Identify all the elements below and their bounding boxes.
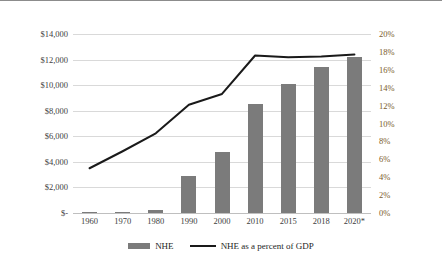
right-tick-10%: 10% — [379, 120, 395, 129]
left-tick-$6,000: $6,000 — [45, 132, 68, 141]
x-tick-2018: 2018 — [305, 217, 338, 226]
x-tick-1970: 1970 — [106, 217, 139, 226]
left-tick-$14,000: $14,000 — [40, 30, 68, 39]
legend-item-nhe[interactable]: NHE — [128, 241, 174, 251]
x-tick-2010: 2010 — [239, 217, 272, 226]
left-tick-$8,000: $8,000 — [45, 107, 68, 116]
left-tick-$-: $- — [61, 209, 68, 218]
line-series — [73, 34, 371, 213]
right-tick-16%: 16% — [379, 66, 395, 75]
left-tick-$10,000: $10,000 — [40, 81, 68, 90]
legend-label-nhe: NHE — [155, 241, 174, 251]
x-tick-1960: 1960 — [73, 217, 106, 226]
right-tick-12%: 12% — [379, 102, 395, 111]
plot-area — [73, 34, 371, 213]
right-tick-14%: 14% — [379, 84, 395, 93]
bar-swatch-icon — [128, 243, 150, 249]
chart-legend: NHE NHE as a percent of GDP — [0, 241, 442, 251]
legend-label-nhe-percent-gdp: NHE as a percent of GDP — [221, 241, 314, 251]
gridline — [73, 213, 371, 214]
right-tick-20%: 20% — [379, 30, 395, 39]
line-swatch-icon — [190, 245, 216, 247]
right-tick-8%: 8% — [379, 137, 390, 146]
right-tick-4%: 4% — [379, 173, 390, 182]
x-tick-2015: 2015 — [272, 217, 305, 226]
x-tick-1980: 1980 — [139, 217, 172, 226]
right-tick-2%: 2% — [379, 191, 390, 200]
left-tick-$12,000: $12,000 — [40, 56, 68, 65]
right-tick-6%: 6% — [379, 155, 390, 164]
x-tick-2000: 2000 — [205, 217, 238, 226]
right-tick-18%: 18% — [379, 48, 395, 57]
x-tick-2020*: 2020* — [338, 217, 371, 226]
legend-item-nhe-percent-gdp[interactable]: NHE as a percent of GDP — [190, 241, 314, 251]
chart-container: $-$2,000$4,000$6,000$8,000$10,000$12,000… — [0, 0, 442, 270]
left-tick-$4,000: $4,000 — [45, 158, 68, 167]
right-tick-0%: 0% — [379, 209, 390, 218]
left-tick-$2,000: $2,000 — [45, 183, 68, 192]
x-tick-1990: 1990 — [172, 217, 205, 226]
gdp-percent-line — [90, 55, 355, 169]
